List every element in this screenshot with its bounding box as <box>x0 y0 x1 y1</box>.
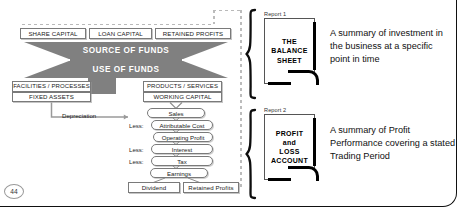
page-canvas: SHARE CAPITAL LOAN CAPITAL RETAINED PROF… <box>0 0 461 219</box>
depreciation-label: Depreciation <box>62 110 122 120</box>
pl-box-retained-profits[interactable]: Retained Profits <box>183 182 239 193</box>
report-1-shadow-right <box>313 22 316 70</box>
report-2-fold-notch <box>288 166 319 181</box>
report-2-caption: Report 2 <box>264 107 286 113</box>
report-2-title: PROFIT and LOSS ACCOUNT <box>271 129 308 166</box>
page-number-badge: 44 <box>4 184 24 199</box>
less-label-tax: Less: <box>129 156 151 166</box>
pl-row-interest[interactable]: Interest <box>151 144 213 154</box>
pl-row-tax[interactable]: Tax <box>151 156 213 166</box>
pl-row-earnings[interactable]: Earnings <box>150 168 208 178</box>
report-1-shadow-bottom <box>268 82 291 85</box>
pl-box-dividend[interactable]: Dividend <box>128 182 180 193</box>
report-1-document[interactable]: THE BALANCE SHEET <box>264 18 315 84</box>
pl-row-sales[interactable]: Sales <box>147 108 205 118</box>
report-1-caption: Report 1 <box>264 11 286 17</box>
report-2-shadow-bottom <box>268 178 291 181</box>
report-2-shadow-right <box>313 118 316 166</box>
report-2-description: A summary of Profit Performance covering… <box>330 124 458 163</box>
report-2-document[interactable]: PROFIT and LOSS ACCOUNT <box>264 114 315 180</box>
report-1-title: THE BALANCE SHEET <box>271 37 307 65</box>
report-1-description: A summary of investment in the business … <box>330 27 454 66</box>
pl-row-operating-profit[interactable]: Operating Profit <box>153 132 213 142</box>
right-dashed-rail <box>240 10 242 190</box>
less-label-interest: Less: <box>129 144 151 154</box>
report-braces <box>246 8 262 208</box>
less-label-attributable-cost: Less: <box>129 120 151 130</box>
report-1-fold-notch <box>288 70 319 85</box>
pl-row-attributable-cost[interactable]: Attributable Cost <box>151 120 213 130</box>
